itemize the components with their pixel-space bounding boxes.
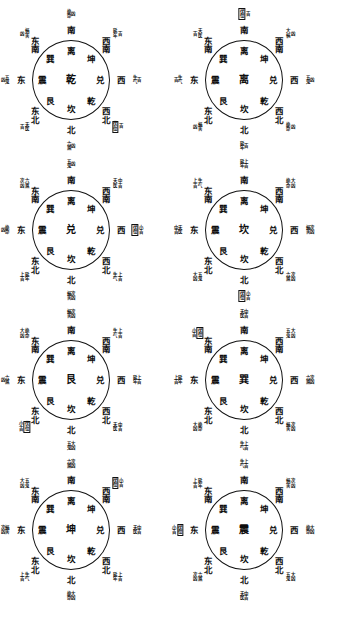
annotation-name: 延年 xyxy=(240,142,244,151)
annotation-rating: 大凶 xyxy=(193,422,197,431)
annotation-rating: 上吉 xyxy=(244,442,248,451)
annotation-rating: 凶 xyxy=(291,124,295,128)
annotation-name: 六煞 xyxy=(67,460,71,469)
direction-ne: 东北 xyxy=(204,557,213,574)
trigram-w: 兑 xyxy=(269,226,278,235)
direction-nw: 西北 xyxy=(102,257,111,274)
annotation-name: 祸害 xyxy=(5,526,9,535)
direction-se: 东南 xyxy=(204,336,213,353)
annotation-name: 六煞 xyxy=(286,272,290,281)
annotation-name: 伏位 xyxy=(238,290,245,302)
trigram-nw: 乾 xyxy=(87,396,96,405)
direction-n: 北 xyxy=(67,426,76,434)
trigram-se: 巽 xyxy=(46,505,55,514)
annotation-rating: 大凶 xyxy=(310,526,314,535)
annotation-n: 六煞凶 xyxy=(67,142,76,151)
annotation-w: 天医中吉 xyxy=(133,526,142,535)
annotation-rating: 次凶 xyxy=(310,226,314,235)
direction-w: 西 xyxy=(290,76,299,84)
direction-s: 南 xyxy=(67,326,76,334)
annotation-rating: 凶 xyxy=(20,31,24,35)
trigram-w: 兑 xyxy=(96,376,105,385)
annotation-name: 绝命 xyxy=(198,422,202,431)
annotation-rating: 中吉 xyxy=(118,422,122,431)
bagua-diagram-2: 离离坤兑乾坎艮震巽南西南西西北北东北东东南伏位吉大祸凶五鬼凶绝命凶延年吉凶祸害吉… xyxy=(173,10,346,160)
direction-se: 东南 xyxy=(204,186,213,203)
direction-se: 东南 xyxy=(31,186,40,203)
annotation-name: 大祸 xyxy=(286,29,290,38)
trigram-nw: 乾 xyxy=(260,96,269,105)
annotation-rating: 大凶 xyxy=(291,329,295,338)
direction-nw: 西北 xyxy=(102,557,111,574)
annotation-rating: 凶 xyxy=(1,378,5,382)
direction-e: 东 xyxy=(17,376,26,384)
annotation-rating: 上吉 xyxy=(244,160,248,169)
trigram-e: 震 xyxy=(211,526,220,535)
annotation-name: 祸害 xyxy=(306,226,310,235)
center-trigram: 乾 xyxy=(66,75,76,85)
direction-sw: 西南 xyxy=(102,186,111,203)
trigram-n: 坎 xyxy=(67,555,76,564)
trigram-e: 震 xyxy=(211,376,220,385)
annotation-name: 绝命 xyxy=(5,226,9,235)
annotation-rating: 凶 xyxy=(291,31,295,35)
annotation-name: 天医 xyxy=(178,226,182,235)
direction-nw: 西北 xyxy=(275,557,284,574)
annotation-name: 五鬼 xyxy=(198,272,202,281)
trigram-ne: 艮 xyxy=(46,96,55,105)
annotation-name: 延年 xyxy=(25,272,29,281)
annotation-rating: 次凶 xyxy=(291,272,295,281)
annotation-w: 六煞次凶 xyxy=(306,376,315,385)
direction-n: 北 xyxy=(240,426,249,434)
annotation-rating: 上吉 xyxy=(118,572,122,581)
direction-se: 东南 xyxy=(31,336,40,353)
annotation-w: 绝命大凶 xyxy=(306,526,315,535)
trigram-e: 震 xyxy=(38,226,47,235)
annotation-name: 延年 xyxy=(178,376,182,385)
direction-nw: 西北 xyxy=(102,107,111,124)
annotation-name: 绝命 xyxy=(286,179,290,188)
annotation-rating: 凶 xyxy=(71,144,75,148)
annotation-n: 生气上吉 xyxy=(240,442,249,451)
direction-n: 北 xyxy=(240,126,249,134)
annotation-rating: 上吉 xyxy=(118,329,122,338)
annotation-ne: 凶祸害 xyxy=(193,122,202,131)
annotation-rating: 吉 xyxy=(246,12,250,16)
annotation-name: 天医 xyxy=(198,29,202,38)
annotation-name: 生气 xyxy=(113,329,117,338)
annotation-name: 绝命 xyxy=(25,329,29,338)
trigram-s: 离 xyxy=(67,47,76,56)
annotation-rating: 中吉 xyxy=(118,179,122,188)
trigram-e: 震 xyxy=(38,526,47,535)
annotation-ne-boxed: 小吉伏位 xyxy=(19,421,30,433)
direction-se: 东南 xyxy=(204,486,213,503)
annotation-w: 五鬼凶 xyxy=(306,76,315,85)
center-trigram: 离 xyxy=(239,75,249,85)
annotation-s: 天医中吉 xyxy=(240,310,249,319)
direction-s: 南 xyxy=(67,26,76,34)
annotation-s: 延年上吉 xyxy=(240,160,249,169)
direction-sw: 西南 xyxy=(275,186,284,203)
annotation-name: 延年 xyxy=(113,29,117,38)
annotation-name: 延年 xyxy=(198,479,202,488)
annotation-sw-boxed: 伏位小吉 xyxy=(112,477,123,489)
trigram-ne: 艮 xyxy=(46,546,55,555)
annotation-rating: 次凶 xyxy=(71,292,75,301)
bagua-chart-sheet: 乾离坤兑乾坎艮震巽南西南西西北北东北东东南绝命凶延年吉生气吉伏位吉六煞凶吉天医凶… xyxy=(0,0,346,630)
annotation-name: 五鬼 xyxy=(286,572,290,581)
annotation-name: 五鬼 xyxy=(5,76,9,85)
direction-n: 北 xyxy=(67,576,76,584)
annotation-name: 五鬼 xyxy=(67,160,71,169)
annotation-e: 凶六煞 xyxy=(1,376,10,385)
annotation-s: 六煞次凶 xyxy=(67,460,76,469)
annotation-rating: 吉 xyxy=(119,124,123,128)
trigram-se: 巽 xyxy=(46,205,55,214)
trigram-sw: 坤 xyxy=(260,205,269,214)
annotation-e: 上吉延年 xyxy=(174,376,183,385)
annotation-name: 生气 xyxy=(240,460,244,469)
direction-sw: 西南 xyxy=(102,486,111,503)
annotation-e: 凶五鬼 xyxy=(1,76,10,85)
annotation-se: 大凶绝命 xyxy=(20,329,29,338)
trigram-se: 巽 xyxy=(219,55,228,64)
annotation-name: 天医 xyxy=(113,179,117,188)
